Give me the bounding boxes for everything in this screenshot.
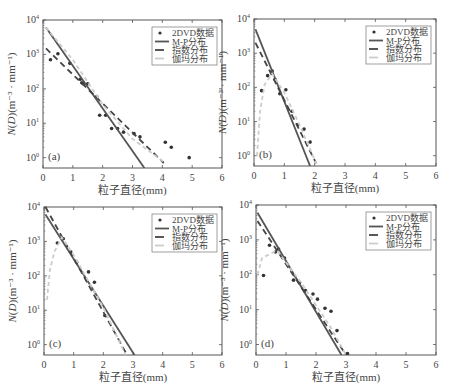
x-tick-label: 3 <box>343 170 348 181</box>
y-tick-label: 100 <box>27 339 40 350</box>
x-tick-label: 1 <box>70 172 75 183</box>
x-tick-label: 5 <box>403 170 408 181</box>
y-tick-label: 102 <box>239 269 252 280</box>
x-tick-label: 0 <box>41 172 46 183</box>
x-tick-label: 0 <box>254 359 259 370</box>
data-point <box>329 309 333 313</box>
data-point <box>98 114 102 118</box>
chart-panel-a: 0123456100101102103104(a)2DVD数据M-P分布指数分布… <box>5 14 225 197</box>
y-tick-label: 104 <box>237 13 250 24</box>
x-tick-label: 6 <box>434 359 439 370</box>
x-tick-label: 5 <box>190 172 195 183</box>
data-point <box>110 127 114 131</box>
y-tick-label: 100 <box>239 339 252 350</box>
x-tick-label: 1 <box>284 359 289 370</box>
x-tick-label: 1 <box>282 170 287 181</box>
x-tick-label: 6 <box>220 172 225 183</box>
x-axis-label: 粒子直径(mm) <box>98 183 167 197</box>
data-point <box>268 243 272 247</box>
y-tick-label: 102 <box>237 81 250 92</box>
x-tick-label: 4 <box>374 359 379 370</box>
data-point <box>335 329 339 333</box>
x-axis-label: 粒子直径(mm) <box>312 370 381 384</box>
x-tick-label: 6 <box>434 170 439 181</box>
y-axis-label: N(D)(m⁻³ · mm⁻¹) <box>216 51 229 135</box>
x-tick-label: 2 <box>312 170 317 181</box>
x-tick-label: 2 <box>101 359 106 370</box>
data-point <box>87 270 91 274</box>
data-point <box>292 278 296 282</box>
y-tick-label: 102 <box>27 270 40 281</box>
data-point <box>122 130 126 134</box>
y-tick-label: 102 <box>26 83 39 94</box>
x-tick-label: 4 <box>373 170 378 181</box>
y-tick-label: 101 <box>239 304 252 315</box>
y-tick-label: 103 <box>26 48 39 59</box>
y-tick-label: 101 <box>27 304 40 315</box>
x-tick-label: 4 <box>160 172 165 183</box>
x-tick-label: 0 <box>42 359 47 370</box>
x-tick-label: 5 <box>404 359 409 370</box>
y-tick-label: 103 <box>27 235 40 246</box>
x-tick-label: 6 <box>220 359 225 370</box>
chart-panel-d: 0123456100101102103104(d)2DVD数据M-P分布指数分布… <box>218 199 439 384</box>
chart-panel-c: 0123456100101102103104(c)2DVD数据M-P分布指数分布… <box>6 201 225 384</box>
legend-entry: 伽玛分布 <box>172 53 208 64</box>
x-tick-label: 3 <box>344 359 349 370</box>
x-tick-label: 0 <box>252 170 257 181</box>
data-point <box>169 145 173 149</box>
data-point <box>323 306 327 310</box>
panel-label: (b) <box>259 148 272 161</box>
y-tick-label: 101 <box>26 117 39 128</box>
legend-entry: 伽玛分布 <box>172 240 208 251</box>
panel-label: (c) <box>49 337 62 350</box>
data-point <box>311 292 315 296</box>
y-axis-label: N(D)(m⁻³ · mm⁻¹) <box>218 238 231 322</box>
figure: 0123456100101102103104(a)2DVD数据M-P分布指数分布… <box>0 0 451 388</box>
x-tick-label: 3 <box>130 172 135 183</box>
x-tick-label: 5 <box>190 359 195 370</box>
y-tick-label: 104 <box>27 201 40 212</box>
data-point <box>164 140 168 144</box>
x-tick-label: 2 <box>314 359 319 370</box>
data-point <box>93 280 97 284</box>
y-axis-label: N(D)(m⁻³ · mm⁻¹) <box>6 239 19 323</box>
x-tick-label: 1 <box>71 359 76 370</box>
legend-entry: 伽玛分布 <box>386 238 422 249</box>
data-point <box>316 297 320 301</box>
y-tick-label: 100 <box>26 152 39 163</box>
y-tick-label: 100 <box>237 150 250 161</box>
x-tick-label: 3 <box>131 359 136 370</box>
data-point <box>56 52 60 56</box>
data-point <box>187 156 191 160</box>
data-point <box>49 58 53 62</box>
y-tick-label: 104 <box>239 199 252 210</box>
panel-label: (a) <box>48 150 61 163</box>
y-tick-label: 103 <box>237 47 250 58</box>
y-tick-label: 101 <box>237 116 250 127</box>
x-tick-label: 4 <box>160 359 165 370</box>
panel-label: (d) <box>261 337 274 350</box>
x-axis-label: 粒子直径(mm) <box>99 370 168 384</box>
data-point <box>138 135 142 139</box>
x-axis-label: 粒子直径(mm) <box>311 181 380 195</box>
y-tick-label: 103 <box>239 234 252 245</box>
data-point <box>308 140 312 144</box>
y-axis-label: N(D)(m⁻³ · mm⁻¹) <box>5 52 18 136</box>
data-point <box>262 274 266 278</box>
y-tick-label: 104 <box>26 14 39 25</box>
x-tick-label: 2 <box>100 172 105 183</box>
data-point <box>284 88 288 92</box>
chart-panel-b: 0123456100101102103104(b)2DVD数据M-P分布指数分布… <box>216 13 439 195</box>
legend-entry: 伽玛分布 <box>386 52 422 63</box>
